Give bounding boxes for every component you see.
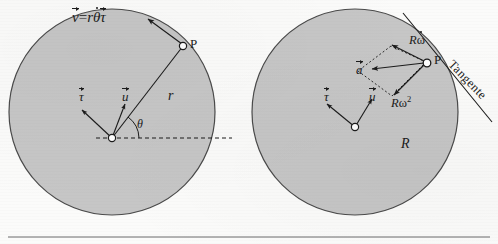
normal-component-prefix: R [391,96,399,110]
velocity-formula-tau: τ [100,9,105,25]
right-point-p-label: P [434,53,441,66]
normal-component-label: Rω2 [391,95,411,110]
velocity-formula-equals: = [79,9,87,25]
left-radius-label: r [168,89,173,103]
left-u-label: u [122,88,129,103]
right-circle-body [252,9,458,215]
figure-page: v=rθτ P τ u r θ Rω P a Rω2 Tangente τ u … [0,0,498,244]
velocity-formula-v: v [72,9,79,25]
acceleration-label: a [356,61,363,76]
normal-component-exponent: 2 [407,94,411,104]
velocity-formula-theta: θ [93,9,100,25]
velocity-formula: v=rθτ [72,8,106,25]
right-radius-label: R [401,137,410,151]
tangential-component-symbol: ω [417,33,425,47]
tangential-component-prefix: R [409,33,417,47]
normal-component-symbol: ω [399,96,407,110]
theta-label: θ [137,118,143,130]
right-u-label: u [369,88,376,103]
left-circle-body [9,9,215,215]
left-point-p [179,42,186,49]
tangential-component-label: Rω [409,34,425,47]
right-tau-label: τ [324,88,329,103]
left-point-p-label: P [190,37,197,50]
left-tau-label: τ [79,88,84,103]
right-point-p [423,59,431,67]
right-center-point [351,123,358,130]
left-center-point [108,134,115,141]
